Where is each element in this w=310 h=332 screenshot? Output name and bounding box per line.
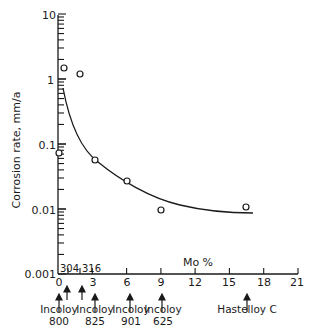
data-point (92, 157, 98, 163)
trend-curve (63, 88, 253, 213)
label-316: 316 (82, 263, 101, 274)
label-304: 304 (60, 263, 79, 274)
alloy-625-grade: 625 (153, 315, 173, 327)
x-tick-9: 9 (158, 276, 165, 289)
x-tick-12: 12 (188, 276, 202, 289)
x-tick-0: 0 (56, 276, 63, 289)
y-tick-0.01: 0.01 (32, 204, 57, 217)
data-point (124, 178, 130, 184)
alloy-625-name: Incoloy (144, 303, 182, 315)
alloy-hastelloy-name: Hastelloy C (217, 303, 277, 315)
x-tick-6: 6 (124, 276, 131, 289)
y-tick-1: 1 (47, 74, 54, 87)
x-tick-21: 21 (290, 276, 304, 289)
x-tick-18: 18 (257, 276, 271, 289)
alloy-800-name: Incoloy (40, 303, 78, 315)
x-tick-15: 15 (222, 276, 236, 289)
corrosion-chart: Corrosion rate, mm/a 10 1 0.1 0.01 0.001… (0, 0, 310, 332)
y-tick-0.001: 0.001 (25, 268, 57, 281)
data-point (56, 150, 62, 156)
y-tick-0.1: 0.1 (39, 139, 57, 152)
alloy-800-grade: 800 (49, 315, 69, 327)
y-tick-10: 10 (42, 9, 56, 22)
alloy-825-grade: 825 (85, 315, 105, 327)
data-point (158, 207, 164, 213)
y-axis-label: Corrosion rate, mm/a (10, 92, 23, 209)
data-point (61, 65, 67, 71)
alloy-825-name: Incoloy (76, 303, 114, 315)
alloy-901-grade: 901 (121, 315, 141, 327)
data-points (56, 65, 249, 213)
data-point (243, 204, 249, 210)
data-point (77, 71, 83, 77)
x-tick-3: 3 (90, 276, 97, 289)
x-axis-label: Mo % (183, 256, 213, 269)
y-ticks (58, 14, 66, 274)
